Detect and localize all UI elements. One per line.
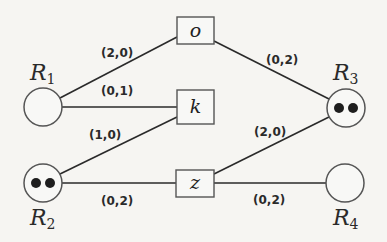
task-node-o: o [177, 17, 214, 44]
svg-text:k: k [190, 95, 202, 117]
token-icon [45, 178, 55, 188]
edge-label-o-r3: (0,2) [266, 53, 298, 67]
edge-label-r1-k: (0,1) [101, 84, 133, 98]
resource-label-r3: R3 [332, 60, 359, 87]
edge-label-z-r3: (2,0) [254, 125, 286, 139]
resource-node-r4 [326, 164, 364, 202]
resource-label-r4: R4 [332, 205, 359, 232]
task-node-z: z [176, 170, 214, 197]
task-node-k: k [177, 90, 214, 124]
svg-text:o: o [190, 19, 201, 41]
resource-node-r1 [24, 88, 62, 126]
edge-label-z-r4: (0,2) [253, 193, 285, 207]
edge-label-r1-o: (2,0) [101, 46, 133, 60]
token-icon [348, 103, 358, 113]
resource-label-r2: R2 [29, 205, 56, 232]
resource-node-r3 [327, 89, 365, 127]
edge-o-r3 [214, 41, 329, 99]
svg-text:z: z [189, 171, 201, 193]
resource-label-r1: R1 [29, 60, 56, 87]
resource-node-r2 [24, 164, 62, 202]
diagram-canvas: (2,0) (0,1) (1,0) (0,2) (0,2) (2,0) (0,2… [0, 0, 387, 242]
token-icon [31, 178, 41, 188]
edge-label-r2-z: (0,2) [101, 194, 133, 208]
edge-label-r2-k: (1,0) [89, 128, 121, 142]
graph-svg: (2,0) (0,1) (1,0) (0,2) (0,2) (2,0) (0,2… [0, 0, 387, 242]
token-icon [334, 103, 344, 113]
edge-r2-k [60, 117, 177, 174]
